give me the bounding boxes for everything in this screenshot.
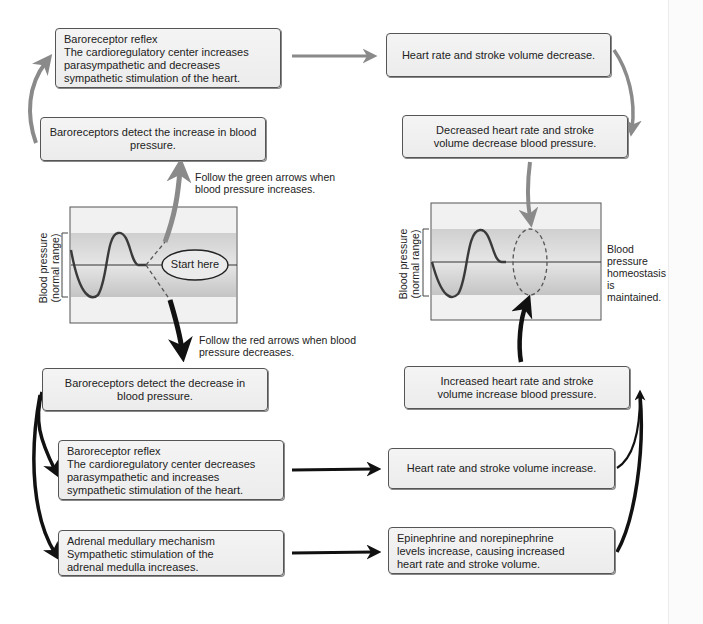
start-here-text: Start here [171, 258, 219, 270]
decreased-bp-box: Decreased heart rate and stroke volume d… [402, 115, 628, 158]
hr-increase-box: Heart rate and stroke volume increase. [388, 448, 615, 489]
adrenal-title: Adrenal medullary mechanism [67, 535, 243, 548]
left-ylabel-line2: (normal range) [49, 228, 61, 308]
decrease-detect-text: Baroreceptors detect the decrease in blo… [51, 377, 259, 403]
hr-decrease-box: Heart rate and stroke volume decrease. [386, 33, 611, 77]
left-graph-ylabel: Blood pressure (normal range) [37, 228, 61, 308]
adrenal-box: Adrenal medullary mechanism Sympathetic … [58, 530, 284, 576]
decrease-detect-box: Baroreceptors detect the decrease in blo… [42, 368, 268, 411]
increase-reflex-body: The cardioregulatory center increases pa… [64, 46, 272, 85]
increase-detect-text: Baroreceptors detect the increase in blo… [49, 126, 257, 152]
right-ylabel-line2: (normal range) [409, 224, 421, 304]
increased-bp-box: Increased heart rate and stroke volume i… [404, 366, 630, 409]
decrease-reflex-body: The cardioregulatory center decreases pa… [67, 458, 275, 497]
decrease-reflex-title: Baroreceptor reflex [67, 445, 275, 458]
left-ylabel-line1: Blood pressure [37, 228, 49, 308]
adrenal-body: Sympathetic stimulation of the adrenal m… [67, 548, 243, 574]
right-ylabel-line1: Blood pressure [397, 224, 409, 304]
increased-bp-text: Increased heart rate and stroke volume i… [423, 375, 611, 401]
increase-detect-box: Baroreceptors detect the increase in blo… [40, 117, 266, 161]
start-here-label[interactable]: Start here [162, 258, 228, 270]
homeostasis-note-text: Blood pressure homeostasis is maintained… [607, 243, 666, 303]
homeostasis-note: Blood pressure homeostasis is maintained… [607, 243, 671, 303]
decrease-note-text: Follow the red arrows when blood pressur… [199, 334, 356, 358]
epinephrine-text: Epinephrine and norepinephrine levels in… [397, 532, 565, 570]
increase-note-text: Follow the green arrows when blood press… [195, 171, 335, 195]
decreased-bp-text: Decreased heart rate and stroke volume d… [421, 124, 609, 150]
decrease-note: Follow the red arrows when blood pressur… [199, 334, 359, 358]
increase-reflex-box: Baroreceptor reflex The cardioregulatory… [55, 28, 281, 88]
increase-reflex-title: Baroreceptor reflex [64, 33, 272, 46]
hr-increase-text: Heart rate and stroke volume increase. [407, 462, 597, 475]
epinephrine-box: Epinephrine and norepinephrine levels in… [388, 527, 615, 574]
decrease-reflex-box: Baroreceptor reflex The cardioregulatory… [58, 440, 284, 500]
right-bp-graph [423, 203, 601, 320]
increase-note: Follow the green arrows when blood press… [195, 171, 355, 195]
hr-decrease-text: Heart rate and stroke volume decrease. [402, 49, 595, 62]
right-graph-ylabel: Blood pressure (normal range) [397, 224, 421, 304]
